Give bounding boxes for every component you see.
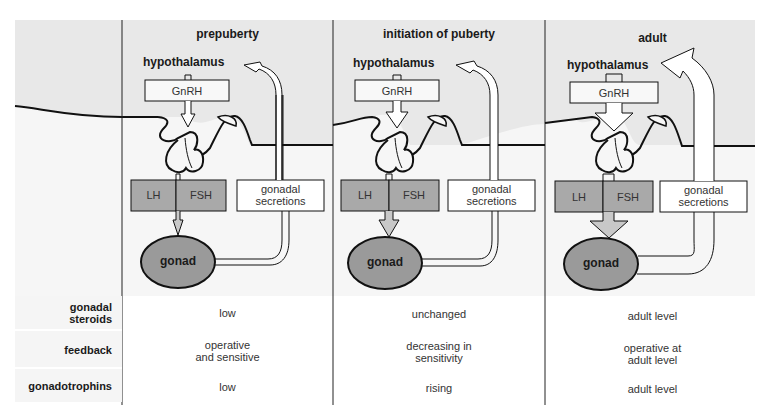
- cell-line2: and sensitive: [122, 351, 333, 363]
- gnrh-label: GnRH: [145, 85, 229, 97]
- cell-line2: adult level: [545, 354, 760, 366]
- table-cell: operative at adult level: [545, 342, 760, 366]
- table-cell: low: [122, 381, 333, 393]
- secretions-line1: gonadal: [448, 183, 535, 195]
- row-label-line1: feedback: [64, 344, 112, 356]
- gnrh-label: GnRH: [570, 87, 658, 99]
- hypothalamus-label: hypothalamus: [143, 55, 224, 69]
- lh-label: LH: [555, 191, 603, 203]
- cell-line1: decreasing in: [333, 340, 545, 352]
- table-cell: decreasing in sensitivity: [333, 340, 545, 364]
- table-cell: rising: [333, 382, 545, 394]
- table-cell: adult level: [545, 383, 760, 395]
- lh-label: LH: [341, 189, 389, 201]
- hypothalamus-label: hypothalamus: [567, 58, 648, 72]
- fsh-label: FSH: [176, 189, 226, 201]
- column-title-initiation: initiation of puberty: [333, 27, 545, 41]
- row-label-gonadal-steroids: gonadal steroids: [69, 301, 112, 325]
- table-cell: operative and sensitive: [122, 339, 333, 363]
- gonad-label: gonad: [348, 255, 422, 269]
- lh-label: LH: [131, 189, 176, 201]
- hypothalamus-label: hypothalamus: [353, 56, 434, 70]
- cell-line1: operative: [122, 339, 333, 351]
- cell-line2: sensitivity: [333, 352, 545, 364]
- table-cell: unchanged: [333, 308, 545, 320]
- row-label-line1: gonadotrophins: [28, 380, 112, 392]
- row-label-line2: steroids: [69, 313, 112, 325]
- column-title-prepuberty: prepuberty: [122, 27, 333, 41]
- secretions-line2: secretions: [237, 195, 324, 207]
- table-cell: adult level: [545, 310, 760, 322]
- gonad-label: gonad: [564, 256, 638, 270]
- gonadal-secretions-label: gonadal secretions: [237, 183, 324, 207]
- gonad-label: gonad: [141, 254, 215, 268]
- column-title-adult: adult: [545, 31, 760, 45]
- cell-line1: operative at: [545, 342, 760, 354]
- secretions-line1: gonadal: [237, 183, 324, 195]
- fsh-label: FSH: [389, 189, 439, 201]
- secretions-line2: secretions: [660, 196, 747, 208]
- gonadal-secretions-label: gonadal secretions: [448, 183, 535, 207]
- row-label-line1: gonadal: [69, 301, 112, 313]
- fsh-label: FSH: [603, 191, 653, 203]
- row-label-gonadotrophins: gonadotrophins: [28, 380, 112, 392]
- gnrh-label: GnRH: [355, 85, 439, 97]
- row-label-feedback: feedback: [64, 344, 112, 356]
- secretions-line1: gonadal: [660, 184, 747, 196]
- secretions-line2: secretions: [448, 195, 535, 207]
- table-cell: low: [122, 307, 333, 319]
- gonadal-secretions-label: gonadal secretions: [660, 184, 747, 208]
